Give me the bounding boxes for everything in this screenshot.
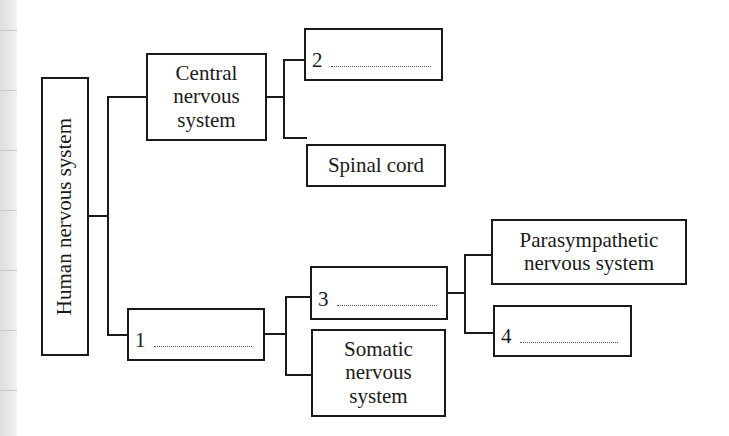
answer-blank-line[interactable] [520, 340, 618, 343]
connector [285, 296, 311, 298]
connector [464, 254, 466, 334]
blank-number: 3 [318, 289, 329, 310]
blank-node-3[interactable]: 3 [310, 266, 448, 320]
node-parasympathetic-nervous-system: Parasympathetic nervous system [491, 219, 687, 285]
connector [464, 332, 494, 334]
root-node-human-nervous-system: Human nervous system [41, 77, 89, 356]
node-label: system [177, 109, 235, 132]
page-margin [0, 0, 17, 436]
node-label: nervous [173, 85, 240, 108]
answer-blank-line[interactable] [337, 303, 437, 306]
node-label: Spinal cord [328, 154, 424, 177]
margin-rule [0, 150, 17, 151]
connector [283, 59, 285, 139]
blank-number: 4 [501, 326, 512, 347]
connector [107, 96, 109, 336]
node-label: nervous [345, 361, 412, 384]
connector [107, 334, 128, 336]
node-label: nervous system [524, 252, 654, 275]
node-spinal-cord: Spinal cord [306, 144, 446, 187]
margin-rule [0, 210, 17, 211]
margin-rule [0, 270, 17, 271]
margin-rule [0, 330, 17, 331]
node-label: Central [176, 62, 238, 85]
answer-blank-line[interactable] [154, 344, 252, 347]
node-central-nervous-system: Central nervous system [146, 53, 267, 141]
blank-node-2[interactable]: 2 [304, 28, 443, 81]
node-somatic-nervous-system: Somatic nervous system [311, 329, 446, 417]
blank-node-1[interactable]: 1 [127, 308, 265, 361]
connector [264, 333, 287, 335]
margin-rule [0, 90, 17, 91]
node-label: Parasympathetic [520, 229, 659, 252]
blank-number: 2 [312, 50, 323, 71]
connector [283, 137, 307, 139]
connector [88, 215, 109, 217]
connector [285, 374, 312, 376]
connector [283, 59, 305, 61]
connector [285, 296, 287, 376]
answer-blank-line[interactable] [331, 64, 431, 67]
margin-rule [0, 30, 17, 31]
connector [107, 96, 147, 98]
blank-node-4[interactable]: 4 [493, 305, 632, 357]
node-label: Somatic [344, 338, 413, 361]
node-label: system [349, 385, 407, 408]
blank-number: 1 [135, 330, 146, 351]
connector [464, 254, 492, 256]
margin-rule [0, 390, 17, 391]
root-label: Human nervous system [53, 118, 76, 315]
